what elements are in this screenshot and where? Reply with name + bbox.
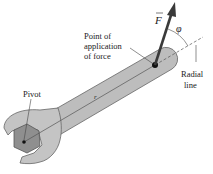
radius-line: [24, 65, 155, 142]
arrowhead-icon: [167, 2, 176, 17]
point-of-application-label-2: application: [84, 41, 123, 51]
point-of-application-label-3: of force: [84, 51, 111, 61]
radius-label: r: [94, 93, 97, 101]
pivot-label: Pivot: [23, 89, 42, 99]
radial-line-label-1: Radial: [181, 69, 204, 79]
point-of-application-label-1: Point of: [84, 31, 111, 41]
pivot-point: [22, 140, 26, 144]
torque-wrench-diagram: F φ Point of application of force Radial…: [0, 0, 213, 174]
radial-line-label-2: line: [184, 80, 197, 90]
angle-label: φ: [176, 23, 182, 34]
force-label: F: [154, 14, 162, 26]
